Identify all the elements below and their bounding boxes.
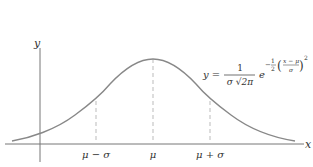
formula-exp-coef-num: 1 <box>271 57 275 64</box>
formula-numerator: 1 <box>237 63 243 73</box>
formula-base: e <box>259 69 265 80</box>
tick-label-mu-plus-sigma: μ + σ <box>196 149 225 160</box>
formula-exp-close-paren: ) <box>299 59 304 73</box>
formula-lhs: y = <box>202 69 220 80</box>
formula-exp-open-paren: ( <box>277 59 282 73</box>
y-axis-label: y <box>33 37 41 50</box>
formula-exp-frac-den: σ <box>289 66 294 73</box>
normal-distribution-diagram: x y μ − σ μ μ + σ y = 1 σ √2π e − 1 2 ( … <box>0 0 313 167</box>
formula-exp-frac-num: x − μ <box>283 57 299 65</box>
normal-pdf-formula: y = 1 σ √2π e − 1 2 ( x − μ σ ) 2 <box>202 54 308 87</box>
x-axis-label: x <box>305 138 312 151</box>
tick-label-mu-minus-sigma: μ − σ <box>82 149 111 160</box>
formula-exp-power: 2 <box>304 54 308 61</box>
formula-exp-coef-den: 2 <box>271 65 275 72</box>
tick-label-mu: μ <box>150 149 157 160</box>
bell-curve <box>12 59 295 141</box>
formula-denominator: σ √2π <box>227 77 254 87</box>
